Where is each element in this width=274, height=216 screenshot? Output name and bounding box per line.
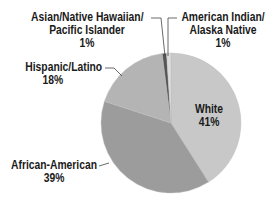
label-american-indian: American Indian/ Alaska Native 1%: [179, 11, 267, 50]
label-hispanic-line1: Hispanic/Latino: [25, 61, 114, 74]
label-white: White 41%: [185, 103, 233, 129]
leader-line-american-indian: [168, 18, 177, 56]
leader-line-asian: [151, 18, 165, 56]
label-asian: Asian/Native Hawaiian/ Pacific Islander …: [31, 11, 143, 50]
label-asian-pct: 1%: [31, 37, 143, 50]
label-african-american-pct: 39%: [8, 172, 101, 185]
leader-line-african-american: [99, 163, 109, 166]
label-hispanic-pct: 18%: [25, 74, 114, 87]
label-african-american: African-American 39%: [8, 159, 101, 185]
label-white-pct: 41%: [185, 116, 233, 129]
label-american-indian-pct: 1%: [179, 37, 267, 50]
label-hispanic: Hispanic/Latino 18%: [25, 61, 114, 87]
